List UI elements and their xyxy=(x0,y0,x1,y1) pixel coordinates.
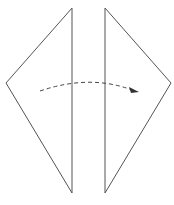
origami-diagram xyxy=(0,0,174,205)
arrow-head-icon xyxy=(129,87,139,93)
fold-arrow xyxy=(40,82,132,91)
left-flap xyxy=(6,8,72,193)
right-flap xyxy=(105,8,171,193)
